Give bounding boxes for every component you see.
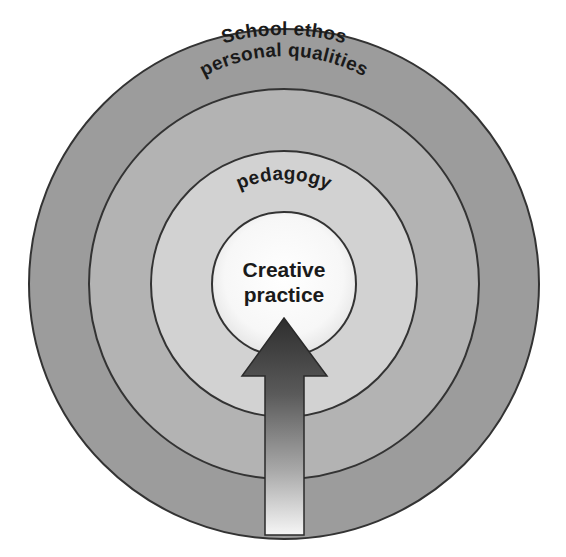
label-practice: practice [244, 283, 325, 306]
concentric-diagram: School ethos personal qualities pedagogy… [0, 0, 566, 557]
label-creative: Creative [243, 258, 326, 281]
